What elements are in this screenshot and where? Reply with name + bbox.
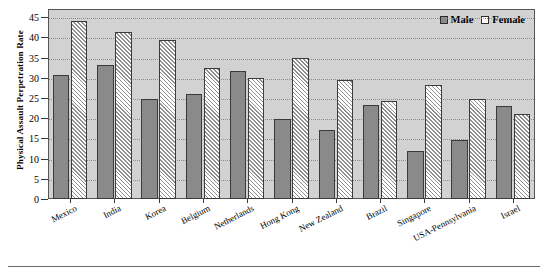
bar-female-korea — [159, 40, 176, 199]
y-axis-tick — [41, 199, 48, 200]
y-axis-tick-label: 0 — [3, 194, 39, 205]
bar-group — [53, 9, 88, 199]
bar-female-netherlands — [248, 78, 265, 199]
bar-female-mexico — [71, 21, 88, 199]
bar-female-brazil — [381, 101, 398, 199]
y-axis-tick — [41, 138, 48, 139]
y-axis-tick-label: 20 — [3, 113, 39, 124]
x-axis-tick — [70, 199, 71, 203]
bar-male-brazil — [363, 105, 380, 199]
bar-male-korea — [141, 99, 158, 199]
x-axis-tick-label: Mexico — [50, 203, 79, 224]
y-axis-tick — [41, 159, 48, 160]
bar-group — [363, 9, 398, 199]
y-axis-tick-label: 25 — [3, 92, 39, 103]
bar-male-belgium — [186, 94, 203, 199]
x-axis-tick-label: Netherlands — [212, 203, 255, 232]
x-axis-tick-label: Israel — [499, 203, 521, 221]
bar-male-mexico — [53, 75, 70, 200]
x-axis-tick — [469, 199, 470, 203]
x-axis-tick — [159, 199, 160, 203]
x-axis-tick-label: Hong Kong — [258, 203, 300, 231]
x-axis-tick-label: Belgium — [179, 203, 211, 226]
bar-group — [186, 9, 221, 199]
x-axis-tick — [380, 199, 381, 203]
bar-group — [97, 9, 132, 199]
bar-female-usa-pennsylvania — [469, 99, 486, 199]
bar-female-india — [115, 32, 132, 199]
bar-female-new-zealand — [337, 80, 354, 199]
bar-female-singapore — [425, 85, 442, 199]
chart-figure: Physical Assault Perpetration Rate 05101… — [0, 0, 547, 276]
y-axis-labels: 051015202530354045 — [0, 0, 39, 276]
bar-group — [274, 9, 309, 199]
x-axis-tick-label: Singapore — [396, 203, 433, 228]
y-axis-tick-label: 5 — [3, 173, 39, 184]
x-axis-tick-label: Brazil — [364, 203, 388, 222]
x-axis-tick — [424, 199, 425, 203]
bar-group — [407, 9, 442, 199]
bar-female-belgium — [204, 68, 221, 199]
y-axis-tick — [41, 58, 48, 59]
bar-male-netherlands — [230, 71, 247, 199]
y-axis-tick — [41, 98, 48, 99]
bar-male-israel — [496, 106, 513, 199]
bar-group — [319, 9, 354, 199]
x-axis-tick — [513, 199, 514, 203]
bar-group — [451, 9, 486, 199]
bar-male-usa-pennsylvania — [451, 140, 468, 199]
bar-male-hong-kong — [274, 119, 291, 199]
bar-female-israel — [514, 114, 531, 199]
bar-series-layer — [48, 9, 535, 199]
y-axis-tick — [41, 17, 48, 18]
x-axis-tick-label: India — [102, 203, 123, 220]
x-axis-tick — [292, 199, 293, 203]
bar-group — [496, 9, 531, 199]
bar-group — [141, 9, 176, 199]
y-axis-tick-label: 15 — [3, 133, 39, 144]
y-axis-tick-label: 30 — [3, 72, 39, 83]
bar-male-new-zealand — [319, 130, 336, 199]
x-axis-tick-label: Korea — [143, 203, 167, 222]
x-axis-tick — [203, 199, 204, 203]
bar-male-india — [97, 65, 114, 199]
y-axis-tick-label: 45 — [3, 12, 39, 23]
x-axis-tick — [336, 199, 337, 203]
footer-divider — [8, 266, 540, 267]
y-axis-tick — [41, 179, 48, 180]
y-axis-tick — [41, 78, 48, 79]
x-axis-tick — [247, 199, 248, 203]
bar-group — [230, 9, 265, 199]
bar-female-hong-kong — [292, 58, 309, 199]
y-axis-tick — [41, 118, 48, 119]
x-axis-tick-label: New Zealand — [297, 203, 345, 234]
y-axis-tick-label: 35 — [3, 52, 39, 63]
y-axis-tick — [41, 37, 48, 38]
bar-male-singapore — [407, 151, 424, 200]
y-axis-tick-label: 10 — [3, 153, 39, 164]
x-axis-tick — [114, 199, 115, 203]
x-axis-labels: MexicoIndiaKoreaBelgiumNetherlandsHong K… — [48, 199, 535, 269]
y-axis-tick-label: 40 — [3, 32, 39, 43]
